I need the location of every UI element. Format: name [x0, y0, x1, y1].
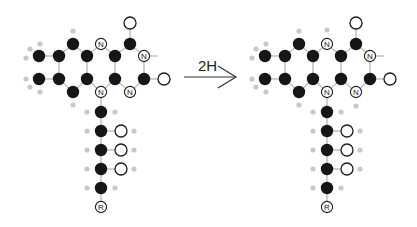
hydrogen-atom [310, 166, 315, 171]
hydrogen-atom [84, 166, 89, 171]
carbon-atom [279, 50, 291, 62]
hydrogen-atom [112, 109, 117, 114]
carbon-atom [95, 125, 107, 137]
nitrogen-label: N [98, 40, 104, 49]
carbon-atom [53, 50, 65, 62]
reactant-molecule: NNNNR [23, 17, 170, 213]
oxygen-atom [341, 163, 353, 175]
carbon-atom [53, 73, 65, 85]
hydrogen-atom [324, 27, 329, 32]
carbon-atom [307, 50, 319, 62]
hydrogen-atom [338, 109, 343, 114]
hydrogen-atom [253, 46, 258, 51]
hydrogen-atom [23, 55, 28, 60]
carbon-atom [109, 50, 121, 62]
hydrogen-atom [353, 103, 358, 108]
carbon-atom [67, 38, 79, 50]
carbon-atom [321, 182, 333, 194]
product-molecule: NNNNR [249, 17, 396, 213]
hydrogen-atom [84, 128, 89, 133]
carbon-atom [33, 73, 45, 85]
hydrogen-atom [310, 109, 315, 114]
carbon-atom [109, 73, 121, 85]
hydrogen-atom [263, 41, 268, 46]
hydrogen-atom [84, 147, 89, 152]
hydrogen-atom [37, 41, 42, 46]
oxygen-atom [115, 125, 127, 137]
hydrogen-atom [70, 102, 75, 107]
carbon-atom [124, 38, 136, 50]
hydrogen-atom [131, 166, 136, 171]
carbon-atom [33, 50, 45, 62]
hydrogen-atom [296, 28, 301, 33]
carbon-atom [364, 73, 376, 85]
hydrogen-atom [37, 89, 42, 94]
nitrogen-label: N [324, 88, 330, 97]
carbon-atom [259, 50, 271, 62]
flavin-reduction-diagram: NNNNR NNNNR 2H [0, 0, 417, 227]
carbon-atom [321, 144, 333, 156]
nitrogen-label: N [141, 52, 147, 61]
carbon-atom [81, 50, 93, 62]
hydrogen-atom [27, 84, 32, 89]
carbon-atom [95, 144, 107, 156]
carbon-atom [350, 38, 362, 50]
oxygen-atom [115, 144, 127, 156]
nitrogen-label: N [367, 52, 373, 61]
hydrogen-atom [70, 28, 75, 33]
hydrogen-atom [357, 166, 362, 171]
carbon-atom [321, 163, 333, 175]
carbon-atom [95, 182, 107, 194]
oxygen-atom [384, 73, 396, 85]
carbon-atom [321, 125, 333, 137]
oxygen-atom [350, 17, 362, 29]
carbon-atom [67, 86, 79, 98]
hydrogen-atom [84, 109, 89, 114]
r-group-label: R [324, 203, 330, 212]
nitrogen-label: N [98, 88, 104, 97]
hydrogen-atom [357, 147, 362, 152]
carbon-atom [293, 38, 305, 50]
hydrogen-atom [23, 76, 28, 81]
carbon-atom [259, 73, 271, 85]
hydrogen-atom [338, 185, 343, 190]
hydrogen-atom [263, 89, 268, 94]
hydrogen-atom [310, 147, 315, 152]
oxygen-atom [158, 73, 170, 85]
arrow-label: 2H [198, 57, 217, 74]
hydrogen-atom [357, 128, 362, 133]
oxygen-atom [341, 144, 353, 156]
r-group-label: R [98, 203, 104, 212]
oxygen-atom [124, 17, 136, 29]
hydrogen-atom [131, 147, 136, 152]
carbon-atom [335, 73, 347, 85]
carbon-atom [307, 73, 319, 85]
carbon-atom [138, 73, 150, 85]
carbon-atom [279, 73, 291, 85]
hydrogen-atom [296, 102, 301, 107]
hydrogen-atom [249, 55, 254, 60]
hydrogen-atom [112, 185, 117, 190]
hydrogen-atom [27, 46, 32, 51]
carbon-atom [321, 106, 333, 118]
carbon-atom [95, 106, 107, 118]
nitrogen-label: N [324, 40, 330, 49]
carbon-atom [95, 163, 107, 175]
hydrogen-atom [310, 128, 315, 133]
oxygen-atom [115, 163, 127, 175]
nitrogen-label: N [127, 88, 133, 97]
oxygen-atom [341, 125, 353, 137]
carbon-atom [81, 73, 93, 85]
hydrogen-atom [131, 128, 136, 133]
reaction-arrow: 2H [184, 57, 236, 88]
carbon-atom [293, 86, 305, 98]
hydrogen-atom [310, 185, 315, 190]
carbon-atom [335, 50, 347, 62]
nitrogen-label: N [353, 88, 359, 97]
molecule-canvas: NNNNR NNNNR 2H [0, 0, 417, 227]
hydrogen-atom [249, 76, 254, 81]
hydrogen-atom [253, 84, 258, 89]
hydrogen-atom [84, 185, 89, 190]
